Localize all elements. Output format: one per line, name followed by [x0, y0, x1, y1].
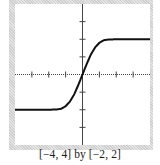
window-range-caption: [−4, 4] by [−2, 2] — [0, 148, 160, 160]
function-graph — [15, 4, 150, 145]
